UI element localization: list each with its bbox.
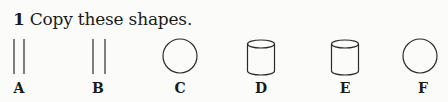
shapes-figure bbox=[0, 0, 448, 102]
shape-label-e: E bbox=[340, 80, 351, 96]
shape-label-a: A bbox=[14, 80, 25, 96]
shape-e-cylinder bbox=[332, 40, 359, 75]
shape-label-d: D bbox=[255, 80, 267, 96]
shape-f-circle bbox=[403, 39, 437, 73]
shape-a-parallel-lines bbox=[14, 39, 24, 74]
shape-label-f: F bbox=[418, 80, 428, 96]
shape-c-circle bbox=[163, 39, 197, 73]
shape-label-b: B bbox=[92, 80, 104, 96]
shape-b-parallel-lines bbox=[93, 39, 105, 74]
shape-label-c: C bbox=[174, 80, 185, 96]
shape-d-cylinder bbox=[248, 40, 275, 75]
